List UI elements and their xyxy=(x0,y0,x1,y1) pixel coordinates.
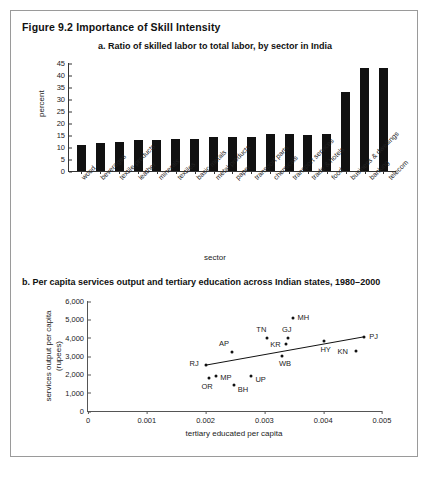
scatter-point-label: AP xyxy=(219,339,229,348)
panel-a-y-tick: 10 xyxy=(57,143,69,152)
panel-b-scatter-chart: b. Per capita services output and tertia… xyxy=(11,277,419,457)
panel-b-title: b. Per capita services output and tertia… xyxy=(22,277,380,287)
scatter-point xyxy=(204,364,207,367)
scatter-point-label: MH xyxy=(298,313,310,322)
scatter-point xyxy=(286,336,289,339)
scatter-point xyxy=(363,335,366,338)
panel-b-y-tick: 4,000 xyxy=(65,333,88,342)
scatter-point-label: UP xyxy=(255,375,265,384)
panel-b-y-tick: 3,000 xyxy=(65,352,88,361)
bar-slot xyxy=(166,63,185,171)
scatter-point-label: MP xyxy=(220,373,231,382)
panel-a-x-tick xyxy=(327,171,328,174)
panel-a-x-tick xyxy=(383,171,384,174)
panel-a-x-tick xyxy=(214,171,215,174)
panel-a-bar-chart: a. Ratio of skilled labor to total labor… xyxy=(11,41,419,273)
scatter-point-label: TN xyxy=(256,325,266,334)
figure-title: Figure 9.2 Importance of Skill Intensity xyxy=(22,21,221,33)
scatter-point xyxy=(291,316,294,319)
panel-b-y-tick: 1,000 xyxy=(65,388,88,397)
panel-a-plot-area: 051015202530354045 xyxy=(68,63,396,172)
scatter-point xyxy=(354,350,357,353)
panel-a-y-tick: 20 xyxy=(57,119,69,128)
scatter-point xyxy=(285,343,288,346)
panel-a-x-tick xyxy=(289,171,290,174)
panel-b-x-tick: 0 xyxy=(86,411,90,425)
panel-a-x-tick xyxy=(346,171,347,174)
panel-b-plot-area: 01,0002,0003,0004,0005,0006,000 00.0010.… xyxy=(87,301,382,412)
scatter-point-label: WB xyxy=(279,359,291,368)
panel-a-x-tick xyxy=(308,171,309,174)
scatter-point-label: PJ xyxy=(369,332,378,341)
figure-container: Figure 9.2 Importance of Skill Intensity… xyxy=(10,10,418,457)
panel-a-y-axis-label: percent xyxy=(37,90,46,117)
panel-a-y-tick: 35 xyxy=(57,83,69,92)
bar xyxy=(341,92,350,171)
scatter-point xyxy=(231,351,234,354)
scatter-point xyxy=(281,355,284,358)
scatter-point xyxy=(323,340,326,343)
panel-b-x-tick: 0.002 xyxy=(196,411,215,425)
scatter-point xyxy=(207,377,210,380)
panel-b-x-axis-label: tertiary educated per capita xyxy=(87,429,381,438)
panel-a-y-tick: 0 xyxy=(61,167,69,176)
panel-a-x-tick xyxy=(270,171,271,174)
bar-slot xyxy=(72,63,91,171)
panel-b-y-tick: 2,000 xyxy=(65,370,88,379)
panel-b-x-tick: 0.001 xyxy=(137,411,156,425)
panel-a-x-axis-label: sector xyxy=(11,253,419,262)
panel-b-x-tick: 0.004 xyxy=(314,411,333,425)
panel-a-x-tick xyxy=(232,171,233,174)
panel-b-y-axis-label: services output per capita (rupees) xyxy=(44,301,64,411)
scatter-point-label: KN xyxy=(338,347,348,356)
panel-b-y-tick: 5,000 xyxy=(65,315,88,324)
bar-slot xyxy=(91,63,110,171)
scatter-point-label: HY xyxy=(320,345,330,354)
bar-slot xyxy=(148,63,167,171)
scatter-point xyxy=(250,375,253,378)
scatter-point-label: RJ xyxy=(190,359,199,368)
scatter-point xyxy=(232,384,235,387)
panel-b-y-tick: 6,000 xyxy=(65,297,88,306)
scatter-point-label: BH xyxy=(238,385,248,394)
scatter-point xyxy=(266,336,269,339)
panel-b-x-tick: 0.003 xyxy=(255,411,274,425)
scatter-point-label: KR xyxy=(270,340,280,349)
panel-a-y-tick: 5 xyxy=(61,155,69,164)
bar-slot xyxy=(185,63,204,171)
panel-a-y-tick: 40 xyxy=(57,71,69,80)
panel-b-x-tick: 0.005 xyxy=(373,411,392,425)
panel-a-x-tick xyxy=(251,171,252,174)
panel-a-title: a. Ratio of skilled labor to total labor… xyxy=(11,41,419,51)
panel-a-y-tick: 45 xyxy=(57,59,69,68)
scatter-point xyxy=(215,375,218,378)
panel-a-bars xyxy=(69,63,396,171)
panel-a-y-tick: 30 xyxy=(57,95,69,104)
panel-a-y-tick: 15 xyxy=(57,131,69,140)
scatter-point-label: OR xyxy=(202,382,213,391)
bar xyxy=(96,143,105,171)
panel-a-x-tick xyxy=(365,171,366,174)
bar xyxy=(379,68,388,171)
scatter-point-label: GJ xyxy=(282,325,292,334)
bar xyxy=(77,145,86,171)
panel-a-y-tick: 25 xyxy=(57,107,69,116)
